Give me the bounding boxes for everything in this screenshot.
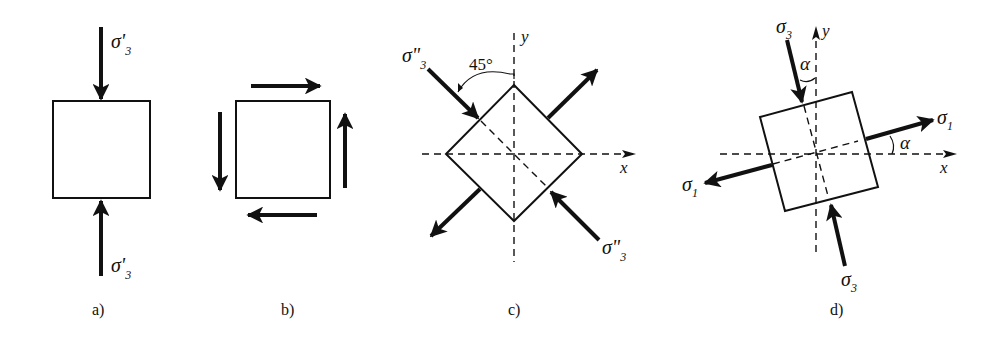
caption-b: b) bbox=[281, 301, 294, 319]
axis-y-arrowhead bbox=[812, 26, 820, 40]
alpha-label-top: α bbox=[800, 53, 811, 74]
element-square bbox=[236, 101, 330, 198]
panel-b: b) bbox=[220, 86, 345, 319]
caption-a: a) bbox=[92, 301, 104, 319]
angle-arc-tick bbox=[510, 74, 514, 79]
sigma1-label-left: σ1 bbox=[682, 173, 698, 200]
alpha-label-right: α bbox=[900, 132, 911, 153]
panel-d: y x α α σ3 σ3 σ1 σ1 d) bbox=[682, 15, 957, 319]
element-square bbox=[53, 101, 150, 198]
sigma1-label-right: σ1 bbox=[937, 106, 953, 133]
axis-x-arrowhead bbox=[943, 150, 957, 158]
axis-x-label: x bbox=[939, 158, 948, 177]
panel-c: 45° y x σ"3 σ"3 c) bbox=[402, 27, 636, 319]
axis-x-label: x bbox=[619, 158, 628, 177]
sigma1-arrow-left bbox=[705, 165, 772, 183]
panel-a: σ'3 σ'3 a) bbox=[53, 27, 150, 319]
stress-element-figure: σ'3 σ'3 a) b) 45° y x σ"3 σ" bbox=[0, 0, 994, 338]
axis-y-label: y bbox=[820, 21, 830, 40]
caption-d: d) bbox=[830, 301, 843, 319]
tension-arrow-lower-left bbox=[431, 189, 480, 236]
compression-arrow-lower-right bbox=[551, 192, 599, 240]
angle-arc-arrowhead bbox=[458, 83, 463, 92]
angle-arc-45 bbox=[458, 72, 510, 92]
axis-x-arrowhead bbox=[622, 150, 636, 158]
figure-canvas: σ'3 σ'3 a) b) 45° y x σ"3 σ" bbox=[0, 0, 994, 338]
stress-label-top: σ'3 bbox=[111, 30, 131, 58]
angle-arc-alpha-top bbox=[800, 78, 815, 82]
axis-y-label: y bbox=[519, 27, 529, 46]
compression-arrow-upper-left bbox=[428, 69, 478, 118]
sigma3-label-top: σ3 bbox=[776, 15, 792, 42]
stress-label-bottom: σ"3 bbox=[602, 236, 626, 264]
stress-label-bottom: σ'3 bbox=[111, 254, 131, 282]
caption-c: c) bbox=[508, 301, 520, 319]
sigma3-arrow-bottom bbox=[831, 205, 845, 266]
sigma3-label-bottom: σ3 bbox=[841, 268, 857, 295]
stress-label-top: σ"3 bbox=[402, 44, 426, 72]
element-rotated-square bbox=[760, 92, 878, 211]
angle-label: 45° bbox=[469, 55, 493, 74]
tension-arrow-upper-right bbox=[548, 70, 597, 118]
angle-arc-alpha-right bbox=[890, 136, 894, 154]
